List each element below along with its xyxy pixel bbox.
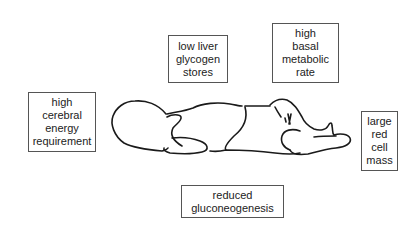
infant-arm <box>167 115 182 146</box>
infant-head <box>112 101 168 151</box>
factor-high-basal-metabolic-rate: high basal metabolic rate <box>272 23 339 83</box>
factor-line: gluconeogenesis <box>191 202 274 215</box>
factor-line: cerebral <box>42 109 82 122</box>
factor-line: high <box>295 27 316 40</box>
factor-line: rate <box>296 66 315 79</box>
factor-large-red-cell-mass: large red cell mass <box>361 111 398 171</box>
factor-low-liver-glycogen: low liver glycogen stores <box>168 35 228 83</box>
factor-line: basal <box>292 40 318 53</box>
factor-line: mass <box>366 154 392 167</box>
factor-line: reduced <box>213 189 253 202</box>
factor-line: low liver <box>178 40 218 53</box>
factor-line: requirement <box>33 135 92 148</box>
factor-line: energy <box>45 122 79 135</box>
factor-high-cerebral-energy: high cerebral energy requirement <box>28 92 96 152</box>
factor-reduced-gluconeogenesis: reduced gluconeogenesis <box>181 185 284 218</box>
factor-line: large <box>367 115 391 128</box>
infant-leg <box>270 99 334 135</box>
factor-line: red <box>372 128 388 141</box>
factor-line: stores <box>183 66 213 79</box>
factor-line: metabolic <box>282 53 329 66</box>
factor-line: cell <box>371 141 388 154</box>
factor-line: high <box>52 96 73 109</box>
infant-torso <box>167 103 242 114</box>
factor-line: glycogen <box>176 53 220 66</box>
